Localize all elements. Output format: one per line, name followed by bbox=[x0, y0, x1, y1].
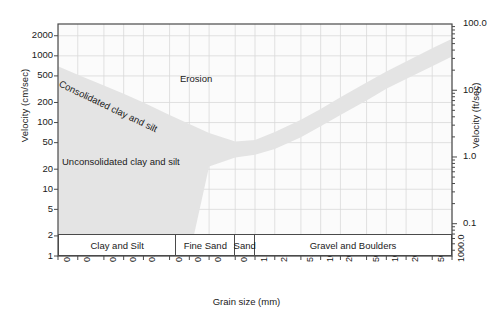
y-tick-label-left: 10 bbox=[7, 184, 53, 194]
y-tick-label-right: 0.1 bbox=[463, 218, 493, 228]
grain-size-category-cell: Gravel and Boulders bbox=[255, 235, 451, 255]
y-tick-label-left: 2000 bbox=[7, 30, 53, 40]
y-tick-label-left: 50 bbox=[7, 137, 53, 147]
y-tick-label-right: 1.0 bbox=[463, 151, 493, 161]
y-tick-label-left: 100 bbox=[7, 117, 53, 127]
annotation-unconsolidated-clay-and-silt: Unconsolidated clay and silt bbox=[62, 156, 180, 167]
y-tick-label-left: 1 bbox=[7, 251, 53, 261]
y-tick-label-left: 200 bbox=[7, 97, 53, 107]
y-axis-right-title: Velocity (ft/sec) bbox=[470, 46, 481, 186]
grain-size-category-band: Clay and SiltFine SandSandGravel and Bou… bbox=[58, 234, 452, 256]
y-tick-label-left: 1000 bbox=[7, 50, 53, 60]
y-tick-label-right: 10.0 bbox=[463, 85, 493, 95]
hjulstrom-diagram: Velocity (cm/sec) Velocity (ft/sec) Grai… bbox=[0, 0, 493, 322]
y-tick-label-left: 500 bbox=[7, 70, 53, 80]
x-axis-title: Grain size (mm) bbox=[0, 296, 493, 307]
grain-size-category-cell: Sand bbox=[235, 235, 255, 255]
grain-size-category-cell: Clay and Silt bbox=[59, 235, 176, 255]
annotation-erosion: Erosion bbox=[180, 73, 212, 84]
y-tick-label-left: 2 bbox=[7, 230, 53, 240]
y-tick-label-left: 20 bbox=[7, 164, 53, 174]
y-tick-label-right: 100.0 bbox=[463, 18, 493, 28]
x-tick-label: 1000.0 bbox=[456, 234, 466, 262]
grain-size-category-cell: Fine Sand bbox=[176, 235, 235, 255]
y-tick-label-left: 5 bbox=[7, 204, 53, 214]
